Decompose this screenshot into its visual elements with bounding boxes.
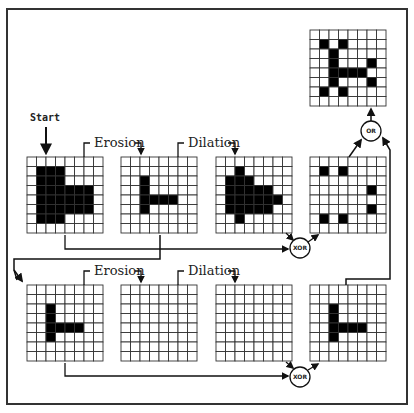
grid-cell-on [46, 205, 56, 215]
grid-cell-off [159, 304, 169, 314]
dilation-2-grid [216, 285, 292, 361]
grid-cell-on [46, 186, 56, 196]
grid-cell-off [320, 205, 330, 215]
grid-cell-off [310, 205, 320, 215]
grid-cell-off [320, 295, 330, 305]
grid-cell-off [329, 342, 339, 352]
grid-cell-off [169, 304, 179, 314]
grid-cell-off [159, 205, 169, 215]
grid-cell-off [121, 285, 131, 295]
grid-cell-on [46, 323, 56, 333]
grid-cell-off [235, 333, 245, 343]
grid-cell-off [84, 214, 94, 224]
grid-cell-off [27, 352, 37, 362]
grid-cell-off [178, 186, 188, 196]
grid-cell-off [329, 97, 339, 107]
grid-cell-off [150, 214, 160, 224]
grid-cell-off [367, 97, 377, 107]
grid-cell-on [140, 195, 150, 205]
grid-cell-on [37, 186, 47, 196]
grid-cell-off [169, 333, 179, 343]
grid-cell-off [94, 186, 104, 196]
grid-cell-off [377, 68, 387, 78]
grid-cell-off [188, 314, 198, 324]
grid-cell-off [339, 59, 349, 69]
start-to-xor1-line [65, 235, 288, 249]
grid-cell-on [235, 214, 245, 224]
grid-cell-off [358, 342, 368, 352]
grid-cell-off [367, 333, 377, 343]
grid-cell-off [150, 157, 160, 167]
grid-cell-on [75, 195, 85, 205]
grid-cell-off [56, 304, 66, 314]
grid-cell-off [320, 68, 330, 78]
erosion-2-bracket: Erosion [84, 263, 145, 285]
grid-cell-off [358, 167, 368, 177]
grid-cell-off [358, 285, 368, 295]
grid-cell-off [348, 295, 358, 305]
grid-cell-off [75, 157, 85, 167]
grid-cell-off [367, 68, 377, 78]
grid-cell-off [358, 205, 368, 215]
dilation-1-bracket: Dilation [178, 135, 241, 157]
grid-cell-on [264, 186, 274, 196]
grid-cell-on [46, 333, 56, 343]
grid-cell-off [188, 205, 198, 215]
grid-cell-off [84, 295, 94, 305]
grid-cell-off [254, 342, 264, 352]
grid-cell-off [283, 205, 293, 215]
grid-cell-off [226, 333, 236, 343]
grid-cell-off [56, 224, 66, 234]
grid-cell-on [84, 195, 94, 205]
grid-cell-on [235, 205, 245, 215]
grid-cell-off [216, 176, 226, 186]
grid-cell-off [358, 314, 368, 324]
grid-cell-off [320, 78, 330, 88]
grid-cell-off [320, 176, 330, 186]
grid-cell-off [216, 342, 226, 352]
grid-cell-off [75, 176, 85, 186]
grid-cell-off [377, 49, 387, 59]
xor-2-node: XOR [290, 367, 310, 387]
grid-cell-off [27, 285, 37, 295]
grid-cell-off [27, 157, 37, 167]
grid-cell-off [377, 224, 387, 234]
grid-cell-on [56, 205, 66, 215]
grid-cell-on [56, 195, 66, 205]
grid-cell-off [178, 176, 188, 186]
grid-cell-off [94, 342, 104, 352]
grid-cell-off [159, 333, 169, 343]
grid-cell-off [84, 304, 94, 314]
grid-cell-on [329, 304, 339, 314]
grid-cell-off [131, 333, 141, 343]
grid-cell-off [348, 214, 358, 224]
grid-cell-off [150, 285, 160, 295]
grid-cell-off [367, 352, 377, 362]
grid-cell-on [226, 186, 236, 196]
grid-cell-on [358, 68, 368, 78]
grid-cell-off [226, 342, 236, 352]
grid-cell-on [226, 205, 236, 215]
grid-cell-on [46, 304, 56, 314]
grid-cell-off [75, 295, 85, 305]
grid-cell-off [75, 352, 85, 362]
grid-cell-off [283, 195, 293, 205]
grid-cell-off [27, 224, 37, 234]
grid-cell-off [339, 304, 349, 314]
grid-cell-off [56, 285, 66, 295]
grid-cell-off [348, 304, 358, 314]
dilation1-to-xor1-line [286, 233, 293, 240]
grid-cell-off [188, 285, 198, 295]
grid-cell-off [264, 323, 274, 333]
grid-cell-off [377, 167, 387, 177]
grid-cell-on [339, 323, 349, 333]
grid-cell-off [245, 167, 255, 177]
grid-cell-off [65, 352, 75, 362]
grid-cell-off [339, 30, 349, 40]
xor2-to-result-line [308, 364, 318, 370]
grid-cell-off [121, 352, 131, 362]
grid-cell-off [310, 157, 320, 167]
grid-cell-off [169, 205, 179, 215]
grid-cell-off [178, 342, 188, 352]
grid-cell-off [245, 285, 255, 295]
